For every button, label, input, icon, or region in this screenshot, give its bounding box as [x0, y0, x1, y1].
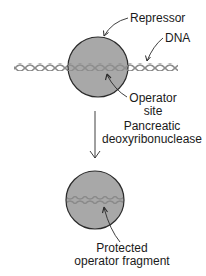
operator-site-label-line2: site [125, 105, 181, 118]
digestion-arrow-icon [90, 111, 100, 158]
operator-dna-segment-icon [68, 63, 128, 71]
protected-fragment-label-line2: operator fragment [72, 255, 172, 268]
operator-site-label: Operator site [125, 92, 181, 118]
repressor-dnase-footprint-diagram: Repressor DNA Operator site Pancreatic d… [0, 0, 206, 276]
dna-leader-arrow-icon [146, 38, 164, 61]
protected-fragment-label: Protected operator fragment [72, 242, 172, 268]
enzyme-label: Pancreatic deoxyribonuclease [100, 120, 204, 146]
dna-label: DNA [165, 32, 190, 45]
protected-dna-fragment-icon [67, 196, 123, 204]
enzyme-label-line2: deoxyribonuclease [100, 133, 204, 146]
repressor-leader-arrow-icon [104, 18, 129, 36]
repressor-label: Repressor [130, 12, 185, 25]
